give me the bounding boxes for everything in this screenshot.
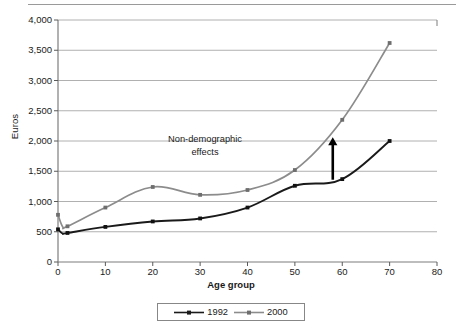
chart-figure: Euros Age group 05001,0001,5002,0002,500… (0, 0, 462, 329)
data-point-1992-2 (66, 231, 70, 235)
data-point-2000-20 (151, 185, 155, 189)
data-point-1992-60 (340, 177, 344, 181)
data-point-2000-10 (103, 206, 107, 210)
data-point-1992-70 (388, 139, 392, 143)
legend-swatch-2000 (234, 308, 264, 317)
annotation-arrow (328, 137, 337, 179)
legend-label-1992: 1992 (207, 308, 228, 317)
data-point-1992-30 (198, 217, 202, 221)
legend-label-2000: 2000 (267, 308, 288, 317)
data-point-2000-60 (340, 118, 344, 122)
plot-area (0, 0, 462, 329)
chart-legend: 1992 2000 (157, 303, 305, 321)
annotation-non-demographic-effects: Non-demographic effects (140, 133, 270, 158)
annotation-line-1: Non-demographic (140, 133, 270, 146)
legend-item-2000[interactable]: 2000 (234, 308, 288, 317)
data-point-1992-20 (151, 220, 155, 224)
data-point-2000-40 (246, 188, 250, 192)
annotation-line-2: effects (140, 146, 270, 159)
data-point-1992-50 (293, 184, 297, 188)
data-point-1992-10 (103, 225, 107, 229)
data-point-1992-40 (246, 206, 250, 210)
data-point-1992-0 (56, 227, 60, 231)
legend-item-1992[interactable]: 1992 (174, 308, 228, 317)
legend-swatch-1992 (174, 308, 204, 317)
data-point-2000-2 (66, 224, 70, 228)
data-point-2000-30 (198, 193, 202, 197)
data-point-2000-0 (56, 213, 60, 217)
data-point-2000-50 (293, 168, 297, 172)
data-point-2000-70 (388, 41, 392, 45)
